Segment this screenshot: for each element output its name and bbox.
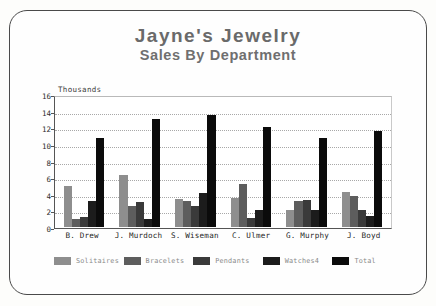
chart-legend: SolitairesBraceletsPendantsWatches4Total — [54, 257, 402, 265]
legend-swatch — [263, 257, 280, 265]
bar-group — [56, 98, 112, 227]
bar-group — [223, 98, 279, 227]
bar — [207, 115, 215, 226]
bar — [64, 186, 72, 227]
bar — [144, 219, 152, 227]
bar — [128, 206, 136, 227]
legend-swatch — [193, 257, 210, 265]
y-tick-mark — [51, 129, 54, 130]
bar — [72, 219, 80, 227]
bar — [374, 131, 382, 227]
plot-outer: 1614121086420 — [54, 96, 392, 229]
legend-item[interactable]: Total — [332, 257, 402, 265]
x-tick-label: G. Murphy — [279, 231, 335, 240]
plot-area — [54, 96, 392, 229]
y-tick-mark — [51, 163, 54, 164]
title-block: Jayne's Jewelry Sales By Department — [10, 25, 426, 64]
legend-swatch — [332, 257, 349, 265]
bar — [342, 192, 350, 227]
bar — [239, 184, 247, 227]
bar — [119, 175, 127, 227]
legend-label: Solitaires — [76, 257, 119, 265]
bar — [286, 210, 294, 227]
bar — [80, 217, 88, 227]
bar — [263, 127, 271, 227]
x-tick-label: J. Murdoch — [110, 231, 166, 240]
x-tick-label: S. Wiseman — [167, 231, 223, 240]
bar — [191, 206, 199, 227]
legend-item[interactable]: Watches4 — [263, 257, 333, 265]
y-tick-mark — [51, 229, 54, 230]
y-axis-unit-label: Thousands — [58, 85, 101, 94]
y-tick-mark — [51, 179, 54, 180]
bar — [366, 216, 374, 227]
y-tick-label: 12 — [42, 125, 51, 134]
bar — [358, 210, 366, 227]
legend-label: Watches4 — [285, 257, 319, 265]
x-tick-label: C. Ulmer — [223, 231, 279, 240]
bar — [247, 218, 255, 227]
bar-group — [167, 98, 223, 227]
bar — [319, 138, 327, 227]
bar — [183, 201, 191, 227]
legend-item[interactable]: Solitaires — [54, 257, 124, 265]
legend-label: Total — [354, 257, 375, 265]
bar — [255, 210, 263, 227]
bar — [303, 200, 311, 227]
legend-swatch — [54, 257, 71, 265]
bar — [350, 196, 358, 227]
bar — [136, 202, 144, 227]
bar — [88, 201, 96, 227]
bar — [294, 201, 302, 226]
bars-layer — [56, 98, 390, 227]
bar-group — [334, 98, 390, 227]
bar — [311, 210, 319, 227]
bar-group — [112, 98, 168, 227]
y-tick-mark — [51, 96, 54, 97]
bar — [152, 119, 160, 227]
y-tick-mark — [51, 113, 54, 114]
x-tick-label: B. Drew — [54, 231, 110, 240]
y-tick-mark — [51, 146, 54, 147]
slide-frame: Jayne's Jewelry Sales By Department Thou… — [9, 10, 427, 295]
page-subtitle: Sales By Department — [10, 47, 426, 64]
page-title: Jayne's Jewelry — [10, 25, 426, 46]
y-tick-label: 10 — [42, 141, 51, 150]
bar-group — [279, 98, 335, 227]
legend-swatch — [124, 257, 141, 265]
bar — [96, 138, 104, 227]
legend-label: Bracelets — [146, 257, 185, 265]
y-tick-mark — [51, 212, 54, 213]
bar — [199, 193, 207, 227]
legend-label: Pendants — [215, 257, 249, 265]
y-tick-label: 16 — [42, 92, 51, 101]
y-tick-label: 14 — [42, 108, 51, 117]
bar — [175, 199, 183, 227]
bar — [231, 198, 239, 227]
x-axis-labels: B. DrewJ. MurdochS. WisemanC. UlmerG. Mu… — [54, 231, 392, 240]
legend-item[interactable]: Bracelets — [124, 257, 194, 265]
legend-item[interactable]: Pendants — [193, 257, 263, 265]
y-tick-mark — [51, 196, 54, 197]
x-tick-label: J. Boyd — [336, 231, 392, 240]
